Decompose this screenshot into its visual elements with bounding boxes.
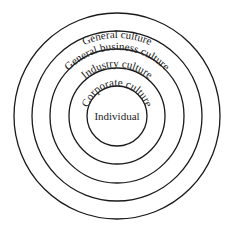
label-corporate-culture-wrap: Corporate culture	[79, 76, 156, 109]
label-corporate-culture: Corporate culture	[79, 76, 156, 109]
culture-layers-diagram: General culture General business culture…	[0, 0, 235, 232]
label-individual: Individual	[94, 110, 139, 122]
